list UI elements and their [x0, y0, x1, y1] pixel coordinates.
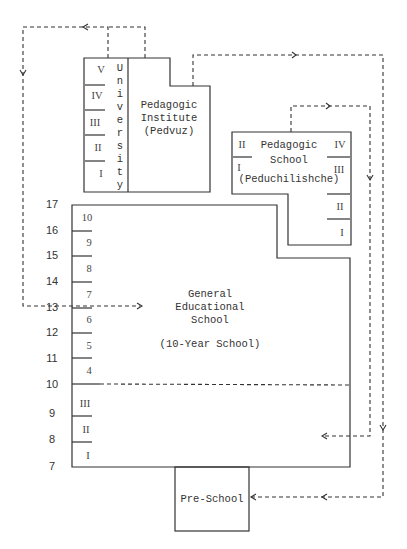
- grade-8: 8: [86, 263, 91, 274]
- svg-text:(10-Year School): (10-Year School): [160, 338, 261, 350]
- grade-4: 4: [86, 365, 92, 376]
- svg-text:School: School: [191, 314, 229, 326]
- svg-text:i: i: [117, 153, 123, 165]
- ped-school-left-year-1: I: [237, 162, 241, 173]
- university-year-4: IV: [91, 90, 102, 101]
- svg-text:(Pedvuz): (Pedvuz): [144, 125, 194, 137]
- svg-text:y: y: [117, 179, 123, 191]
- grade-5: 5: [86, 340, 91, 351]
- svg-text:7: 7: [49, 460, 55, 472]
- university-institute-block: V IV III II I U n i v e r s i t y Pedago…: [84, 58, 210, 192]
- svg-text:14: 14: [46, 275, 58, 287]
- svg-text:s: s: [117, 140, 123, 152]
- svg-text:Pedagogic: Pedagogic: [261, 139, 318, 151]
- pedagogic-school-block: II I IV III II I Pedagogic School (Peduc…: [232, 132, 351, 245]
- ped-school-year-1: I: [340, 227, 344, 238]
- grade-10: 10: [82, 212, 93, 223]
- ped-school-year-2: II: [337, 201, 344, 212]
- university-year-5: V: [97, 64, 105, 75]
- university-year-2: II: [95, 142, 102, 153]
- primary-grade-2: II: [83, 424, 90, 435]
- preschool-block: Pre-School: [175, 467, 249, 531]
- svg-text:Pedagogic: Pedagogic: [141, 99, 198, 111]
- svg-text:9: 9: [49, 407, 55, 419]
- flow-university-to-general-school: [20, 24, 145, 309]
- preschool-label: Pre-School: [180, 493, 243, 505]
- svg-text:11: 11: [46, 352, 57, 364]
- svg-text:13: 13: [46, 301, 58, 313]
- age-axis: 17 16 15 14 13 12 11 10 9 8 7: [46, 198, 58, 472]
- primary-grade-3: III: [80, 398, 91, 409]
- svg-text:e: e: [117, 114, 123, 126]
- svg-text:10: 10: [46, 378, 58, 390]
- education-structure-diagram: V IV III II I U n i v e r s i t y Pedago…: [0, 0, 407, 549]
- svg-text:v: v: [117, 101, 123, 113]
- svg-text:16: 16: [46, 224, 58, 236]
- flow-institute-to-preschool: [193, 52, 386, 500]
- svg-text:n: n: [117, 75, 123, 87]
- svg-text:General: General: [188, 288, 232, 300]
- ped-school-left-year-2: II: [239, 139, 246, 150]
- svg-text:Institute: Institute: [141, 112, 198, 124]
- university-year-1: I: [99, 168, 103, 179]
- svg-text:t: t: [117, 166, 123, 178]
- svg-text:8: 8: [49, 433, 55, 445]
- svg-text:15: 15: [46, 249, 58, 261]
- grade-6: 6: [86, 314, 91, 325]
- university-year-3: III: [90, 117, 101, 128]
- ped-school-year-4: IV: [334, 139, 345, 150]
- pedagogic-school-label: Pedagogic School (Peduchilishche): [239, 139, 340, 185]
- pedagogic-institute-label: Pedagogic Institute (Pedvuz): [141, 99, 198, 137]
- svg-text:Educational: Educational: [175, 301, 244, 313]
- svg-text:U: U: [117, 62, 123, 74]
- general-school-label: General Educational School (10-Year Scho…: [160, 288, 261, 350]
- svg-text:School: School: [270, 154, 308, 166]
- grade-7: 7: [86, 289, 91, 300]
- svg-text:12: 12: [46, 326, 58, 338]
- svg-text:17: 17: [46, 198, 58, 210]
- svg-text:r: r: [117, 127, 123, 139]
- grade-9: 9: [86, 237, 91, 248]
- primary-grade-1: I: [86, 450, 90, 461]
- university-label: U n i v e r s i t y: [117, 62, 123, 191]
- general-school-block: 10 9 8 7 6 5 4 III II I General Educatio…: [72, 205, 350, 467]
- svg-text:i: i: [117, 88, 123, 100]
- svg-text:(Peduchilishche): (Peduchilishche): [239, 173, 340, 185]
